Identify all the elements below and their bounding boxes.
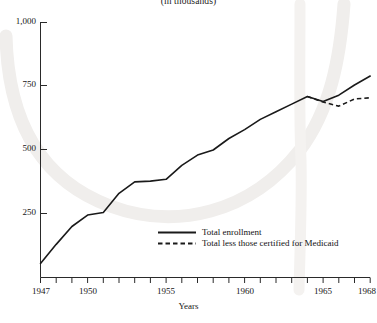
- legend-swatches: [158, 233, 196, 244]
- x-tick-label-1955: 1955: [152, 286, 180, 296]
- x-tick-label-1960: 1960: [231, 286, 259, 296]
- chart-container: (in thousands): [0, 0, 377, 323]
- x-tick-label-1968: 1968: [353, 286, 377, 296]
- series-line-total-less-medicaid: [307, 96, 370, 106]
- x-tick-label-1950: 1950: [74, 286, 102, 296]
- legend-label-total-enrollment: Total enrollment: [202, 227, 262, 237]
- y-tick-label-1000: 1,000: [0, 16, 36, 26]
- y-tick-label-750: 750: [0, 79, 36, 89]
- x-axis-ticks: [41, 278, 371, 284]
- x-tick-label-1965: 1965: [309, 286, 337, 296]
- legend-label-total-less-medicaid: Total less those certified for Medicaid: [202, 238, 339, 248]
- x-axis-title: Years: [0, 301, 377, 311]
- x-tick-label-1947: 1947: [27, 286, 55, 296]
- y-axis-ticks: [41, 23, 48, 214]
- chart-canvas: [0, 0, 377, 323]
- y-tick-label-250: 250: [0, 207, 36, 217]
- y-tick-label-500: 500: [0, 143, 36, 153]
